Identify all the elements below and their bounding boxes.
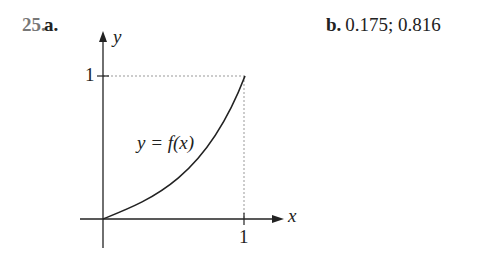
function-graph xyxy=(0,0,485,261)
y-axis-arrow-icon xyxy=(99,31,107,42)
x-tick-label: 1 xyxy=(239,226,249,248)
y-tick-label: 1 xyxy=(85,64,95,86)
x-axis-label: x xyxy=(288,205,296,227)
curve-label: y = f(x) xyxy=(137,132,194,154)
y-axis-label: y xyxy=(113,26,121,48)
x-axis-arrow-icon xyxy=(272,215,284,223)
